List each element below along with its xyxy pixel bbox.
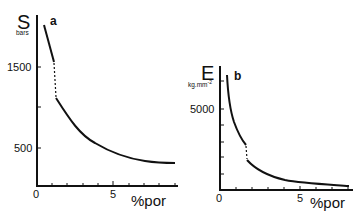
panel-a-y-label-500: 500 [14,142,32,154]
panel-a-x-label-0: 0 [33,188,39,200]
panel-a: S bars a 1500 500 0 5 %por [7,11,178,209]
panel-b-y-unit: kg.mm-2 [188,79,212,89]
panel-b-y-label-5000: 5000 [190,103,214,115]
panel-b-curve-upper [227,75,246,145]
panel-a-curve-upper [44,25,54,62]
panel-a-x-label-5: 5 [110,188,116,200]
panel-b-curve-lower [247,160,349,186]
panel-a-y-label-1500: 1500 [7,61,31,73]
panel-b-x-label-0: 0 [216,192,222,204]
panel-b-x-label-5: 5 [297,192,303,204]
panel-a-curve-lower [56,98,175,163]
panel-b-letter: b [234,69,241,83]
panel-b-x-title: %por [310,194,345,211]
panel-a-curve-dashed [54,63,56,97]
panel-a-y-unit: bars [16,29,29,36]
panel-b: E kg.mm-2 b 5000 0 5 %por [188,62,353,211]
figure: S bars a 1500 500 0 5 %por [0,0,360,216]
panel-b-curve-dashed [246,146,247,159]
panel-a-letter: a [50,14,57,28]
panel-a-x-title: %por [131,192,166,209]
